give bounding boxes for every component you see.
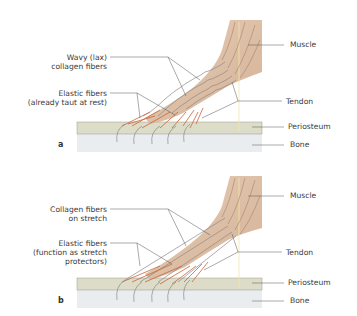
bone-layer-b	[77, 290, 262, 308]
label-tendon-a: Tendon	[286, 97, 313, 106]
label-text: Elastic fibers	[28, 89, 107, 98]
label-text: Wavy (lax)	[51, 53, 107, 62]
panel-a-illustration	[77, 20, 262, 152]
label-text: on stretch	[50, 214, 107, 223]
label-muscle-b: Muscle	[290, 191, 316, 200]
panel-letter-a: a	[58, 140, 63, 149]
label-periosteum-b: Periosteum	[288, 278, 331, 287]
panel-letter-b: b	[58, 296, 64, 305]
label-periosteum-a: Periosteum	[288, 122, 331, 131]
label-collagen-b: Collagen fibers on stretch	[50, 205, 107, 223]
label-elastic-b: Elastic fibers (function as stretch prot…	[33, 239, 107, 266]
label-text: protectors)	[33, 257, 107, 266]
label-tendon-b: Tendon	[286, 248, 313, 257]
label-bone-a: Bone	[290, 140, 309, 149]
label-elastic-a: Elastic fibers (already taut at rest)	[28, 89, 107, 107]
label-text: Collagen fibers	[50, 205, 107, 214]
label-collagen-a: Wavy (lax) collagen fibers	[51, 53, 107, 71]
label-text: collagen fibers	[51, 62, 107, 71]
label-text: (already taut at rest)	[28, 98, 107, 107]
label-text: Elastic fibers	[33, 239, 107, 248]
label-bone-b: Bone	[290, 296, 309, 305]
label-muscle-a: Muscle	[290, 40, 316, 49]
label-text: (function as stretch	[33, 248, 107, 257]
bone-layer-a	[77, 134, 262, 152]
